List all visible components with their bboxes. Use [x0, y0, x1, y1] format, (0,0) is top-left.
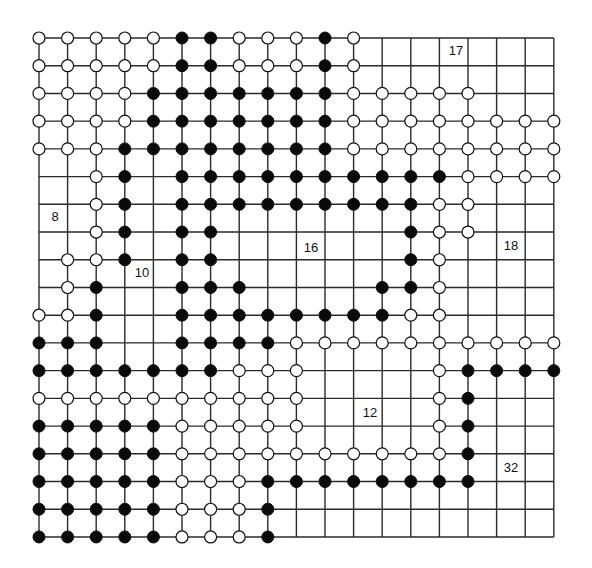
- black-stone-icon: [233, 143, 245, 155]
- black-stone-icon: [147, 476, 159, 488]
- black-stone-icon: [233, 171, 245, 183]
- black-stone-icon: [147, 365, 159, 377]
- white-stone-icon: [462, 143, 474, 155]
- black-stone-icon: [33, 420, 45, 432]
- black-stone-icon: [62, 448, 74, 460]
- white-stone-icon: [519, 337, 531, 349]
- white-stone-icon: [348, 115, 360, 127]
- black-stone-icon: [319, 171, 331, 183]
- black-stone-icon: [33, 448, 45, 460]
- black-stone-icon: [205, 337, 217, 349]
- white-stone-icon: [205, 476, 217, 488]
- white-stone-icon: [233, 531, 245, 543]
- white-stone-icon: [90, 87, 102, 99]
- white-stone-icon: [491, 115, 503, 127]
- white-stone-icon: [405, 143, 417, 155]
- white-stone-icon: [433, 281, 445, 293]
- white-stone-icon: [233, 365, 245, 377]
- white-stone-icon: [62, 254, 74, 266]
- white-stone-icon: [90, 143, 102, 155]
- black-stone-icon: [62, 531, 74, 543]
- white-stone-icon: [90, 171, 102, 183]
- white-stone-icon: [147, 392, 159, 404]
- black-stone-icon: [319, 476, 331, 488]
- white-stone-icon: [205, 448, 217, 460]
- white-stone-icon: [176, 420, 188, 432]
- black-stone-icon: [233, 309, 245, 321]
- black-stone-icon: [205, 87, 217, 99]
- white-stone-icon: [233, 60, 245, 72]
- black-stone-icon: [319, 309, 331, 321]
- white-stone-icon: [376, 87, 388, 99]
- black-stone-icon: [62, 420, 74, 432]
- white-stone-icon: [33, 309, 45, 321]
- white-stone-icon: [433, 309, 445, 321]
- black-stone-icon: [405, 226, 417, 238]
- white-stone-icon: [433, 198, 445, 210]
- black-stone-icon: [90, 309, 102, 321]
- white-stone-icon: [119, 392, 131, 404]
- black-stone-icon: [33, 365, 45, 377]
- black-stone-icon: [90, 281, 102, 293]
- white-stone-icon: [548, 171, 560, 183]
- white-stone-icon: [348, 32, 360, 44]
- black-stone-icon: [405, 198, 417, 210]
- black-stone-icon: [233, 281, 245, 293]
- black-stone-icon: [147, 503, 159, 515]
- black-stone-icon: [90, 337, 102, 349]
- white-stone-icon: [90, 392, 102, 404]
- black-stone-icon: [233, 198, 245, 210]
- white-stone-icon: [290, 420, 302, 432]
- black-stone-icon: [176, 171, 188, 183]
- white-stone-icon: [348, 448, 360, 460]
- white-stone-icon: [348, 337, 360, 349]
- white-stone-icon: [62, 115, 74, 127]
- white-stone-icon: [491, 337, 503, 349]
- white-stone-icon: [348, 60, 360, 72]
- black-stone-icon: [119, 171, 131, 183]
- white-stone-icon: [376, 115, 388, 127]
- territory-count-label: 18: [504, 238, 518, 253]
- black-stone-icon: [90, 448, 102, 460]
- white-stone-icon: [405, 115, 417, 127]
- black-stone-icon: [119, 226, 131, 238]
- white-stone-icon: [290, 60, 302, 72]
- black-stone-icon: [348, 198, 360, 210]
- black-stone-icon: [90, 420, 102, 432]
- go-board-diagram: 1781618101232: [0, 0, 592, 568]
- white-stone-icon: [462, 87, 474, 99]
- white-stone-icon: [462, 115, 474, 127]
- black-stone-icon: [176, 365, 188, 377]
- white-stone-icon: [33, 32, 45, 44]
- white-stone-icon: [233, 392, 245, 404]
- white-stone-icon: [548, 143, 560, 155]
- black-stone-icon: [290, 87, 302, 99]
- black-stone-icon: [62, 476, 74, 488]
- white-stone-icon: [90, 254, 102, 266]
- white-stone-icon: [90, 60, 102, 72]
- white-stone-icon: [62, 32, 74, 44]
- white-stone-icon: [62, 87, 74, 99]
- black-stone-icon: [376, 309, 388, 321]
- white-stone-icon: [176, 448, 188, 460]
- black-stone-icon: [319, 32, 331, 44]
- white-stone-icon: [348, 143, 360, 155]
- black-stone-icon: [290, 309, 302, 321]
- white-stone-icon: [548, 115, 560, 127]
- black-stone-icon: [290, 143, 302, 155]
- black-stone-icon: [176, 309, 188, 321]
- white-stone-icon: [348, 87, 360, 99]
- black-stone-icon: [348, 476, 360, 488]
- territory-count-label: 8: [51, 209, 58, 224]
- black-stone-icon: [262, 143, 274, 155]
- black-stone-icon: [205, 309, 217, 321]
- black-stone-icon: [119, 531, 131, 543]
- white-stone-icon: [290, 337, 302, 349]
- white-stone-icon: [147, 60, 159, 72]
- white-stone-icon: [62, 143, 74, 155]
- black-stone-icon: [262, 503, 274, 515]
- black-stone-icon: [376, 198, 388, 210]
- black-stone-icon: [233, 87, 245, 99]
- black-stone-icon: [147, 420, 159, 432]
- black-stone-icon: [319, 115, 331, 127]
